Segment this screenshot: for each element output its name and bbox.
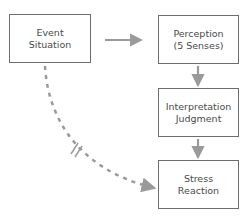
node-interpretation: Interpretation Judgment [158,88,239,137]
break-mark-1 [71,143,78,154]
node-event-line2: Situation [29,39,71,51]
node-perception-line2: (5 Senses) [173,40,223,52]
node-event: Event Situation [9,14,91,63]
node-stress-line1: Stress [184,173,213,185]
node-stress: Stress Reaction [158,160,239,209]
node-interpretation-line2: Judgment [176,113,222,125]
node-event-line1: Event [36,27,63,39]
dashed-arrow-event-to-stress [45,66,154,188]
node-perception: Perception (5 Senses) [158,15,239,64]
node-interpretation-line1: Interpretation [166,101,232,113]
node-stress-line2: Reaction [178,185,219,197]
break-mark-2 [75,146,82,157]
node-perception-line1: Perception [173,28,223,40]
